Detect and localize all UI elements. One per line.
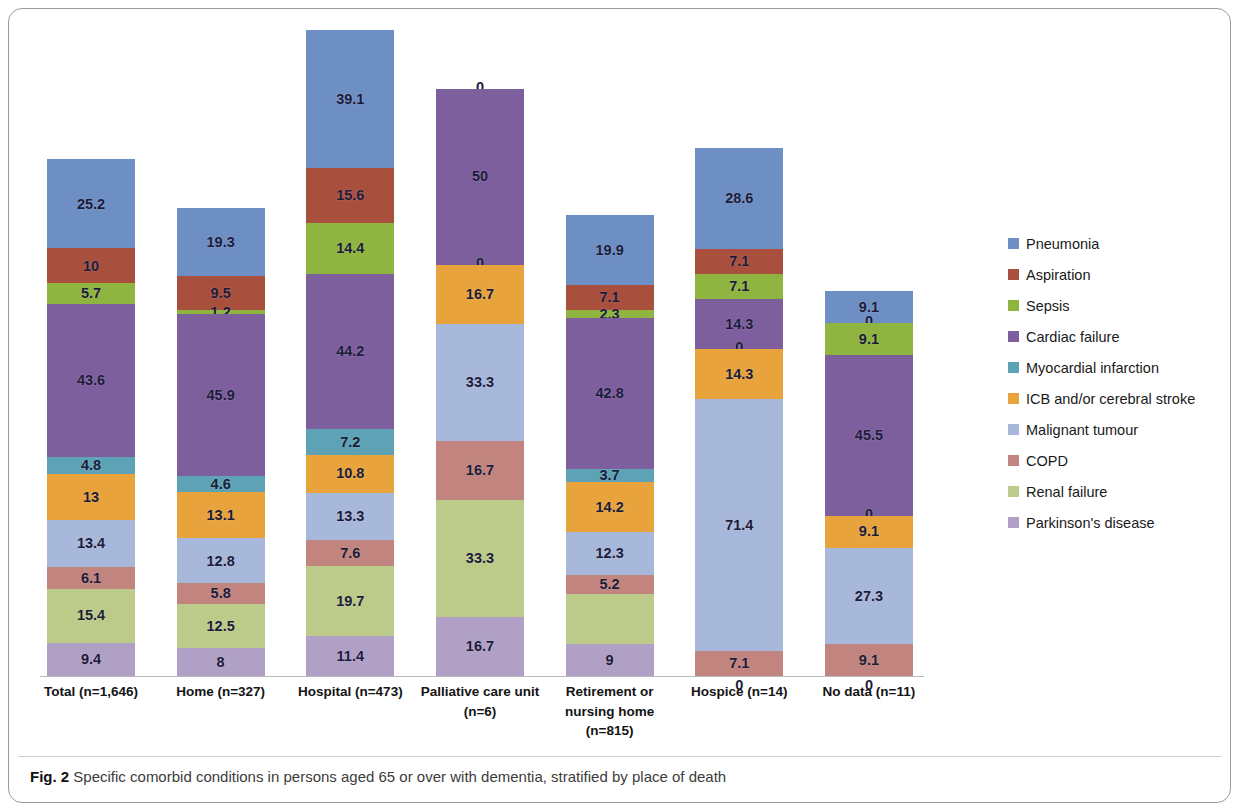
- bar-segment[interactable]: 9.1: [825, 323, 913, 355]
- bar-segment[interactable]: 10.8: [306, 455, 394, 493]
- legend-item-label: ICB and/or cerebral stroke: [1026, 391, 1195, 407]
- bar-segment[interactable]: 9.1: [825, 291, 913, 323]
- bar-segment[interactable]: 43.6: [47, 304, 135, 458]
- bar-segment[interactable]: 45.5: [825, 355, 913, 515]
- bar-segment[interactable]: 9.1: [825, 644, 913, 676]
- bar-segment[interactable]: 13: [47, 474, 135, 520]
- bar-segment[interactable]: 5.8: [177, 583, 265, 603]
- bar-segment[interactable]: 14.3: [695, 299, 783, 349]
- bar-segment[interactable]: 9: [566, 644, 654, 676]
- bar-stack[interactable]: 39.115.614.444.27.210.813.37.619.711.4: [306, 30, 394, 676]
- bar-segment[interactable]: 7.6: [306, 540, 394, 567]
- chart-legend: PneumoniaAspirationSepsisCardiac failure…: [1008, 228, 1233, 538]
- bar-segment[interactable]: 11.4: [306, 636, 394, 676]
- x-axis-labels: Total (n=1,646)Home (n=327)Hospital (n=4…: [30, 682, 930, 741]
- bar-segment[interactable]: 16.7: [436, 265, 524, 324]
- bar-segment[interactable]: 9.5: [177, 276, 265, 309]
- bar-segment[interactable]: 44.2: [306, 274, 394, 430]
- legend-item[interactable]: Cardiac failure: [1008, 321, 1233, 352]
- bar-segment[interactable]: 4.8: [47, 457, 135, 474]
- legend-item[interactable]: Aspiration: [1008, 259, 1233, 290]
- bar-segment-value: 71.4: [725, 518, 753, 533]
- bar-segment[interactable]: 13.1: [177, 492, 265, 538]
- bar-segment[interactable]: 6.1: [47, 567, 135, 588]
- bar-segment[interactable]: 45.9: [177, 314, 265, 476]
- bar-stack[interactable]: 00050016.733.316.733.316.7: [436, 89, 524, 676]
- bar-segment[interactable]: 16.7: [436, 441, 524, 500]
- bar-segment-value: 7.1: [729, 254, 749, 269]
- bar-segment[interactable]: 5.7: [47, 283, 135, 303]
- bar-segment-value: 7.1: [600, 290, 620, 305]
- bar-segment[interactable]: 14.2: [566, 482, 654, 532]
- bar-segment[interactable]: 14.4: [306, 223, 394, 274]
- bar-segment[interactable]: 7.1: [695, 651, 783, 676]
- bar-segment[interactable]: 19.7: [306, 566, 394, 635]
- bar-segment[interactable]: 12.8: [177, 538, 265, 583]
- bar-stack[interactable]: 9.109.145.509.127.39.100: [825, 291, 913, 676]
- bar-segment[interactable]: 4.6: [177, 476, 265, 492]
- bar-stack[interactable]: 25.2105.743.64.81313.46.115.49.4: [47, 159, 135, 676]
- bar-segment-value: 45.9: [207, 388, 235, 403]
- legend-item[interactable]: Renal failure: [1008, 476, 1233, 507]
- bar-segment[interactable]: 39.1: [306, 30, 394, 168]
- bar-stack[interactable]: 19.97.12.342.83.714.212.35.214.49: [566, 215, 654, 676]
- legend-color-swatch-icon: [1008, 238, 1019, 249]
- bar-segment-value: 19.3: [207, 235, 235, 250]
- bar-column: 19.97.12.342.83.714.212.35.214.49: [549, 18, 671, 676]
- bar-stack[interactable]: 28.67.17.114.3014.371.47.100: [695, 148, 783, 676]
- bar-segment[interactable]: 28.6: [695, 148, 783, 249]
- bar-segment[interactable]: 15.6: [306, 168, 394, 223]
- legend-item[interactable]: Parkinson's disease: [1008, 507, 1233, 538]
- bar-segment[interactable]: 33.3: [436, 324, 524, 441]
- x-axis-label-line: (n=6): [419, 702, 541, 722]
- bar-segment[interactable]: 12.3: [566, 532, 654, 575]
- legend-item-label: Parkinson's disease: [1026, 515, 1155, 531]
- bar-segment[interactable]: 7.1: [695, 249, 783, 274]
- x-axis-label-line: Home (n=327): [160, 682, 282, 702]
- legend-item[interactable]: COPD: [1008, 445, 1233, 476]
- bar-segment[interactable]: 33.3: [436, 500, 524, 617]
- bar-segment-value: 33.3: [466, 551, 494, 566]
- bar-segment[interactable]: 15.4: [47, 589, 135, 643]
- bar-segment[interactable]: 5.2: [566, 575, 654, 593]
- bar-segment-value: 10: [83, 259, 99, 274]
- legend-color-swatch-icon: [1008, 486, 1019, 497]
- legend-item[interactable]: ICB and/or cerebral stroke: [1008, 383, 1233, 414]
- bar-segment[interactable]: 13.4: [47, 520, 135, 567]
- bar-segment[interactable]: 12.5: [177, 604, 265, 648]
- bar-segment[interactable]: 7.2: [306, 429, 394, 454]
- x-axis-label: Retirement ornursing home(n=815): [549, 682, 671, 741]
- bar-stack[interactable]: 19.39.51.245.94.613.112.85.812.58: [177, 208, 265, 676]
- bar-segment-value: 13.4: [77, 536, 105, 551]
- bar-segment[interactable]: 9.1: [825, 516, 913, 548]
- bar-segment[interactable]: 25.2: [47, 159, 135, 248]
- bar-segment[interactable]: 19.9: [566, 215, 654, 285]
- legend-item[interactable]: Malignant tumour: [1008, 414, 1233, 445]
- bar-segment[interactable]: 7.1: [566, 285, 654, 310]
- legend-item-label: Pneumonia: [1026, 236, 1099, 252]
- legend-item[interactable]: Sepsis: [1008, 290, 1233, 321]
- bar-segment[interactable]: 13.3: [306, 493, 394, 540]
- legend-item[interactable]: Myocardial infarction: [1008, 352, 1233, 383]
- bar-segment[interactable]: 9.4: [47, 643, 135, 676]
- bar-segment[interactable]: 71.4: [695, 399, 783, 651]
- bar-segment[interactable]: 14.3: [695, 349, 783, 399]
- bar-segment[interactable]: 8: [177, 648, 265, 676]
- bar-segment[interactable]: 27.3: [825, 548, 913, 644]
- bar-segment[interactable]: 3.7: [566, 469, 654, 482]
- bar-segment-value: 9.5: [211, 286, 231, 301]
- legend-color-swatch-icon: [1008, 393, 1019, 404]
- bar-segment[interactable]: 42.8: [566, 318, 654, 469]
- bar-segment[interactable]: 19.3: [177, 208, 265, 276]
- bar-segment-value: 13: [83, 490, 99, 505]
- bar-column: 25.2105.743.64.81313.46.115.49.4: [30, 18, 152, 676]
- bar-segment[interactable]: 2.3: [566, 310, 654, 318]
- bar-segment[interactable]: 14.4: [566, 594, 654, 645]
- bar-segment[interactable]: 10: [47, 248, 135, 283]
- x-axis-line: [40, 676, 924, 677]
- legend-color-swatch-icon: [1008, 269, 1019, 280]
- bar-segment[interactable]: 16.7: [436, 617, 524, 676]
- bar-segment[interactable]: 7.1: [695, 274, 783, 299]
- legend-item[interactable]: Pneumonia: [1008, 228, 1233, 259]
- bar-segment[interactable]: 50: [436, 89, 524, 265]
